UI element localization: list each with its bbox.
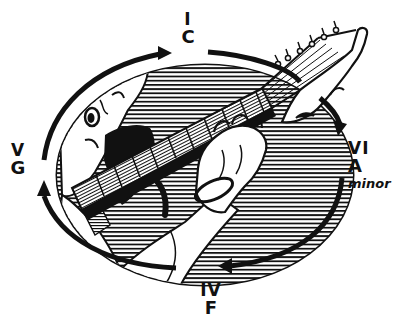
chord-label-I: I C — [176, 11, 200, 46]
chord-quality: minor — [348, 176, 391, 191]
chord-name: F — [196, 299, 226, 317]
chord-label-V: V G — [8, 142, 28, 177]
chord-name: A — [348, 155, 362, 176]
chord-name: G — [8, 159, 28, 177]
chord-label-IV: IV F — [196, 282, 226, 317]
chord-label-VI: VI A minor — [348, 140, 410, 191]
chord-cycle-diagram: I C VI A minor IV F V G — [0, 0, 412, 318]
chord-name: C — [176, 28, 200, 46]
